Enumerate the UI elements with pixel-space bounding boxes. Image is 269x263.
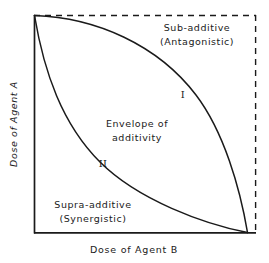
region-label-envelope-line2: additivity bbox=[106, 131, 168, 145]
region-label-supra-additive-line2: (Synergistic) bbox=[54, 212, 131, 226]
y-axis-title: Dose of Agent A bbox=[7, 81, 21, 167]
curve-label-upper: I bbox=[181, 88, 185, 102]
region-label-sub-additive-line2: (Antagonistic) bbox=[160, 35, 234, 49]
curve-label-lower: II bbox=[99, 157, 108, 171]
region-label-envelope: Envelope of additivity bbox=[106, 117, 168, 144]
region-label-envelope-line1: Envelope of bbox=[106, 117, 168, 131]
region-label-sub-additive: Sub-additive (Antagonistic) bbox=[160, 21, 234, 48]
x-axis-title: Dose of Agent B bbox=[90, 243, 178, 257]
region-label-supra-additive-line1: Supra-additive bbox=[54, 198, 131, 212]
isobologram-figure: Sub-additive (Antagonistic) Envelope of … bbox=[0, 0, 269, 263]
region-label-sub-additive-line1: Sub-additive bbox=[160, 21, 234, 35]
region-label-supra-additive: Supra-additive (Synergistic) bbox=[54, 198, 131, 225]
